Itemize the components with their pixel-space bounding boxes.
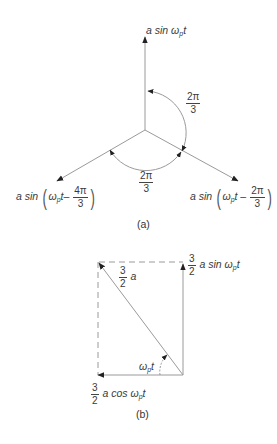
label-cos-component: 32 a cos ωpt (90, 383, 146, 406)
angle-arc-wpt (160, 355, 167, 375)
omega-symbol: ω (48, 190, 56, 202)
frac-den: 3 (255, 198, 261, 209)
frac-den: 2 (189, 266, 195, 277)
frac-den: 3 (143, 183, 149, 194)
figure-b (98, 262, 183, 375)
vector-a-sin-wt-minus-4pi3 (57, 130, 145, 181)
label-resultant: 32 a (118, 266, 136, 289)
label-a-sin-wpt-minus-2pi3: a sin (ωpt – 2π3) (190, 186, 273, 209)
vector-a-sin-wt-minus-2pi3 (145, 130, 238, 181)
caption-a: (a) (137, 218, 150, 230)
label-a-sin-wpt-minus-4pi3: a sin (ωpt– 4π3) (16, 186, 96, 209)
omega-symbol: ω (225, 258, 233, 270)
omega-symbol: ω (131, 387, 139, 399)
label-text: a sin (16, 190, 38, 202)
frac-num: 2π (139, 171, 153, 183)
frac-den: 2 (92, 395, 98, 406)
frac-num: 2π (186, 92, 200, 104)
label-text: a sin (190, 190, 212, 202)
label-suffix: t – (235, 190, 247, 202)
label-suffix: t (237, 258, 240, 270)
label-suffix: t (151, 360, 154, 372)
frac-num: 4π (73, 186, 87, 198)
label-text: a sin (197, 258, 225, 270)
figure-a (57, 37, 238, 181)
label-text: a sin (146, 24, 171, 36)
label-angle-wpt: ωpt (139, 361, 154, 373)
frac-num: 3 (119, 266, 127, 278)
angle-arc-bottom (110, 150, 181, 171)
label-suffix: t (183, 24, 186, 36)
frac-num: 3 (188, 254, 196, 266)
resultant-vector (99, 263, 183, 375)
frac-num: 2π (250, 186, 264, 198)
label-text: a (128, 270, 137, 282)
frac-den: 3 (190, 104, 196, 115)
angle-label-right: 2π3 (185, 92, 201, 115)
angle-label-bottom: 2π3 (138, 171, 154, 194)
label-text: a cos (100, 387, 131, 399)
label-sin-component: 32 a sin ωpt (187, 254, 240, 277)
label-suffix: t– (61, 190, 70, 202)
frac-num: 3 (91, 383, 99, 395)
label-suffix: t (143, 387, 146, 399)
omega-symbol: ω (139, 360, 147, 372)
omega-symbol: ω (222, 190, 230, 202)
frac-den: 3 (78, 198, 84, 209)
caption-b: (b) (136, 408, 149, 420)
label-a-sin-wpt: a sin ωpt (146, 25, 186, 37)
frac-den: 2 (120, 278, 126, 289)
